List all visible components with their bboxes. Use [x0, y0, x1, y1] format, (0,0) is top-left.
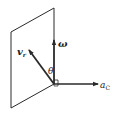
omega-label: ω [58, 38, 68, 49]
vr-label: vr [17, 46, 27, 58]
ac-label: aC [100, 80, 110, 91]
diagram-canvas: ω vr θ aC [0, 0, 121, 115]
plane [11, 8, 54, 108]
theta-label: θ [48, 66, 54, 76]
